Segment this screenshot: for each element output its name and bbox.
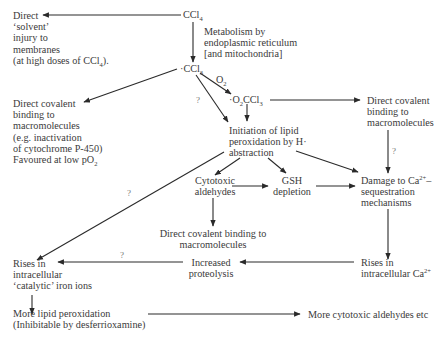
- uncertain-mark-initiation-iron: ?: [127, 188, 131, 198]
- node-lipid-peroxidation-initiation: Initiation of lipid peroxidation by H· a…: [229, 125, 307, 159]
- metabolism-line-3: [and mitochondria]: [204, 48, 297, 59]
- solvent-line-5-text: (at high doses of CCl: [13, 55, 100, 66]
- more-lipid-line-2: (Inhibitable by desferrioxamine): [13, 319, 145, 330]
- initiation-line-1: Initiation of lipid: [229, 125, 307, 136]
- iron-line-2: intracellular: [13, 269, 92, 280]
- ca-damage-line-2: sequestration: [361, 186, 431, 197]
- o2ccl3-ccl: CCl: [243, 94, 259, 105]
- covalent-center-line-1: Direct covalent binding to: [153, 228, 273, 239]
- metabolism-line-2: endoplasmic reticulum: [204, 37, 297, 48]
- ca-rise-line-2: intracellular Ca2+: [361, 268, 431, 279]
- node-covalent-binding-left: Direct covalent binding to macromolecule…: [13, 98, 102, 165]
- solvent-line-3: injury to: [13, 32, 109, 43]
- ca-damage-dash: –: [426, 175, 431, 186]
- node-covalent-binding-right: Direct covalent binding to macromolecule…: [367, 95, 434, 129]
- o2-sub: 2: [223, 80, 226, 87]
- node-ccl3-radical: ·CCl3: [180, 63, 203, 74]
- node-covalent-binding-center: Direct covalent binding to macromolecule…: [153, 228, 273, 250]
- label-o2: O2: [216, 74, 227, 85]
- covalent-left-line-5: of cytochrome P-450): [13, 143, 102, 154]
- covalent-left-line-3: macromolecules: [13, 120, 102, 131]
- ca-damage-line-1-text: Damage to Ca: [361, 175, 419, 186]
- iron-line-1: Rises in: [13, 258, 92, 269]
- node-ccl4: CCl4: [183, 9, 203, 20]
- more-aldehydes-text: More cytotoxic aldehydes etc: [308, 309, 428, 320]
- ca-damage-line-3: mechanisms: [361, 197, 431, 208]
- node-metabolism: Metabolism by endoplasmic reticulum [and…: [204, 26, 297, 60]
- uncertain-mark-ccl3-initiation: ?: [196, 95, 200, 105]
- arrow-initiation-to-aldehydes: [215, 158, 240, 175]
- node-more-cytotoxic-aldehydes: More cytotoxic aldehydes etc: [308, 309, 428, 320]
- initiation-line-3: abstraction: [229, 147, 307, 158]
- ca-rise-line-1: Rises in: [361, 257, 431, 268]
- uncertain-mark-proteolysis-iron: ?: [120, 250, 124, 260]
- covalent-left-line-6-sub: 2: [94, 160, 97, 167]
- covalent-left-line-1: Direct covalent: [13, 98, 102, 109]
- aldehydes-line-2: aldehydes: [193, 186, 237, 197]
- ccl3-text: CCl: [183, 63, 199, 74]
- solvent-line-5-tail: ).: [103, 55, 109, 66]
- more-lipid-line-1: More lipid peroxidation: [13, 308, 145, 319]
- node-cytotoxic-aldehydes: Cytotoxic aldehydes: [193, 175, 237, 197]
- solvent-line-1: Direct: [13, 10, 109, 21]
- covalent-left-line-6-text: Favoured at low pO: [13, 154, 94, 165]
- solvent-line-5: (at high doses of CCl4).: [13, 55, 109, 66]
- solvent-line-2: ‘solvent’: [13, 21, 109, 32]
- covalent-right-line-3: macromolecules: [367, 117, 434, 128]
- ca-rise-line-2-text: intracellular Ca: [361, 268, 424, 279]
- ccl3-sub: 3: [200, 69, 203, 76]
- ccl4-text: CCl: [183, 9, 199, 20]
- node-increased-proteolysis: Increased proteolysis: [185, 257, 237, 279]
- gsh-line-2: depletion: [270, 186, 314, 197]
- uncertain-mark-covalent-ca: ?: [392, 146, 396, 156]
- node-solvent-injury: Direct ‘solvent’ injury to membranes (at…: [13, 10, 109, 66]
- ca-damage-line-1: Damage to Ca2+–: [361, 175, 431, 186]
- metabolism-line-1: Metabolism by: [204, 26, 297, 37]
- ca-rise-sup: 2+: [424, 267, 431, 274]
- node-intracellular-ca-rise: Rises in intracellular Ca2+: [361, 257, 431, 279]
- gsh-line-1: GSH: [270, 175, 314, 186]
- solvent-line-4: membranes: [13, 44, 109, 55]
- covalent-center-line-2: macromolecules: [153, 239, 273, 250]
- covalent-right-line-2: binding to: [367, 106, 434, 117]
- iron-line-3: ‘catalytic’ iron ions: [13, 280, 92, 291]
- arrow-initiation-to-gsh: [268, 158, 286, 173]
- covalent-left-line-4: (e.g. inactivation: [13, 132, 102, 143]
- node-catalytic-iron-ions: Rises in intracellular ‘catalytic’ iron …: [13, 258, 92, 292]
- node-ca-sequestration-damage: Damage to Ca2+– sequestration mechanisms: [361, 175, 431, 209]
- o2ccl3-o: O: [232, 94, 239, 105]
- node-gsh-depletion: GSH depletion: [270, 175, 314, 197]
- covalent-right-line-1: Direct covalent: [367, 95, 434, 106]
- initiation-line-2: peroxidation by H·: [229, 136, 307, 147]
- covalent-left-line-6: Favoured at low pO2: [13, 154, 102, 165]
- covalent-left-line-2: binding to: [13, 109, 102, 120]
- o2ccl3-sub-b: 3: [259, 100, 262, 107]
- proteolysis-line-2: proteolysis: [185, 268, 237, 279]
- proteolysis-line-1: Increased: [185, 257, 237, 268]
- ccl4-sub: 4: [199, 15, 202, 22]
- aldehydes-line-1: Cytotoxic: [193, 175, 237, 186]
- node-more-lipid-peroxidation: More lipid peroxidation (Inhibitable by …: [13, 308, 145, 330]
- node-o2ccl3-radical: ·O2CCl3: [229, 94, 263, 105]
